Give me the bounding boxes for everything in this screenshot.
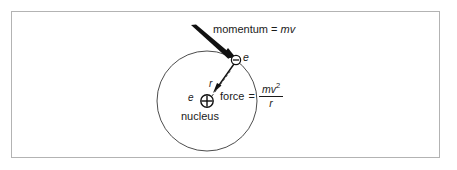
force-label-text: force <box>220 91 244 102</box>
force-numerator-base: mv <box>262 83 276 95</box>
figure-screenshot: momentum = mv e e nucleus r force = mv2 … <box>0 0 457 170</box>
momentum-label-text: momentum = <box>213 23 281 35</box>
nucleus-symbol <box>201 95 213 107</box>
nucleus-charge-label: e <box>188 93 194 103</box>
electron-charge-label: e <box>243 52 249 63</box>
force-equation: force = mv2 r <box>220 83 283 110</box>
force-denominator: r <box>266 97 276 109</box>
force-numerator-exponent: 2 <box>276 81 280 90</box>
force-fraction: mv2 r <box>259 82 283 109</box>
momentum-value: mv <box>281 23 296 35</box>
nucleus-label: nucleus <box>181 111 219 122</box>
equals-sign: = <box>248 91 254 102</box>
radius-label: r <box>209 79 212 89</box>
momentum-label: momentum = mv <box>213 24 295 35</box>
force-numerator: mv2 <box>259 82 283 96</box>
electron-symbol <box>231 55 240 64</box>
